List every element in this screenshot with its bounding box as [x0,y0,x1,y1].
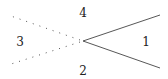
region-label-3: 3 [16,35,24,49]
region-diagram: 1 2 3 4 [0,0,168,79]
region-label-4: 4 [79,6,87,20]
region-label-1: 1 [142,35,150,49]
region-label-2: 2 [79,64,87,78]
